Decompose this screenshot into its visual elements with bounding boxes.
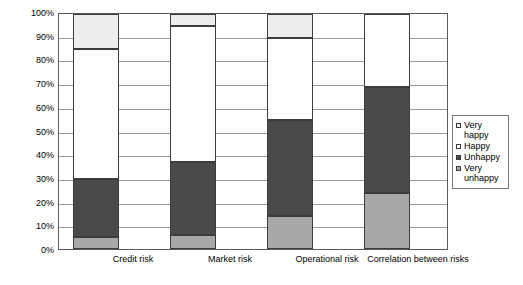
- bar-credit-risk: [73, 14, 119, 249]
- bar-operational-risk: [267, 14, 313, 249]
- y-tick-60: 60%: [2, 103, 54, 112]
- legend-swatch-unhappy-icon: [456, 155, 461, 160]
- legend-label-very-unhappy: Very unhappy: [464, 163, 505, 183]
- legend-item-happy[interactable]: Happy: [456, 141, 505, 151]
- x-tick-correlation: Correlation between risks: [338, 254, 498, 265]
- y-tick-90: 90%: [2, 32, 54, 41]
- segment-happy[interactable]: [267, 38, 313, 120]
- bar-market-risk: [170, 14, 216, 249]
- legend-item-unhappy[interactable]: Unhappy: [456, 152, 505, 162]
- legend-item-very-unhappy[interactable]: Very unhappy: [456, 163, 505, 183]
- segment-very-unhappy[interactable]: [364, 193, 410, 249]
- segment-very-unhappy[interactable]: [73, 237, 119, 249]
- legend-label-very-happy: Very happy: [464, 120, 505, 140]
- legend-label-happy: Happy: [464, 141, 490, 151]
- legend-swatch-very-happy-icon: [456, 123, 461, 128]
- y-tick-20: 20%: [2, 198, 54, 207]
- segment-happy[interactable]: [73, 49, 119, 178]
- segment-unhappy[interactable]: [170, 162, 216, 235]
- segment-very-happy[interactable]: [267, 14, 313, 38]
- legend: Very happy Happy Unhappy Very unhappy: [452, 115, 509, 189]
- segment-unhappy[interactable]: [364, 87, 410, 193]
- segment-unhappy[interactable]: [73, 179, 119, 238]
- y-tick-30: 30%: [2, 174, 54, 183]
- plot-area: [58, 13, 448, 250]
- legend-label-unhappy: Unhappy: [464, 152, 500, 162]
- segment-very-unhappy[interactable]: [267, 216, 313, 249]
- x-axis: Credit risk Market risk Operational risk…: [58, 254, 448, 274]
- y-tick-70: 70%: [2, 80, 54, 89]
- bar-correlation-between-risks: [364, 14, 410, 249]
- y-tick-80: 80%: [2, 56, 54, 65]
- segment-very-happy[interactable]: [170, 14, 216, 26]
- y-tick-0: 0%: [2, 246, 54, 255]
- legend-item-very-happy[interactable]: Very happy: [456, 120, 505, 140]
- y-tick-40: 40%: [2, 151, 54, 160]
- segment-unhappy[interactable]: [267, 120, 313, 216]
- legend-swatch-very-unhappy-icon: [456, 166, 461, 171]
- segment-happy[interactable]: [364, 14, 410, 87]
- y-axis: 100% 90% 80% 70% 60% 50% 40% 30% 20% 10%…: [0, 13, 54, 250]
- segment-very-happy[interactable]: [73, 14, 119, 49]
- segment-happy[interactable]: [170, 26, 216, 162]
- y-tick-10: 10%: [2, 222, 54, 231]
- bar-series-group: [59, 14, 447, 249]
- y-tick-100: 100%: [2, 9, 54, 18]
- segment-very-unhappy[interactable]: [170, 235, 216, 249]
- legend-swatch-happy-icon: [456, 144, 461, 149]
- chart-container: 100% 90% 80% 70% 60% 50% 40% 30% 20% 10%…: [0, 0, 523, 285]
- y-tick-50: 50%: [2, 127, 54, 136]
